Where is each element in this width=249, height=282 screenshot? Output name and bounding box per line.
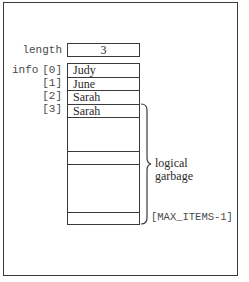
max-items-index-label: [MAX_ITEMS-1] [151,211,233,224]
garbage-annotation-line2: garbage [155,170,193,183]
curly-brace-icon [0,0,249,282]
